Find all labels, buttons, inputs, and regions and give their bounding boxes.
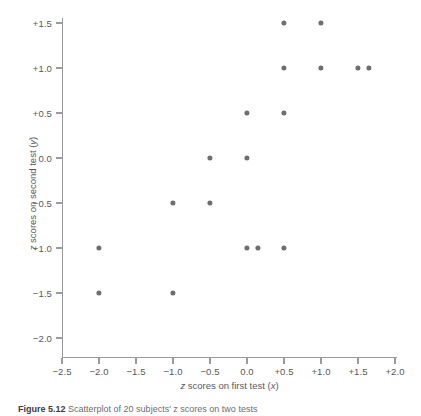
data-point: [170, 200, 175, 205]
data-point: [244, 110, 249, 115]
x-tick-label: +0.5: [274, 366, 293, 377]
x-tick-label: −2.5: [52, 366, 71, 377]
data-point: [244, 245, 249, 250]
x-tick: [320, 358, 321, 364]
data-point: [367, 65, 372, 70]
x-axis-title-tail: ): [275, 380, 278, 391]
x-tick: [283, 358, 284, 364]
scatter-plot: −2.0−1.5−1.0−0.50.0+0.5+1.0+1.5 −2.5−2.0…: [0, 0, 421, 416]
figure-caption-text: Scatterplot of 20 subjects' z scores on …: [68, 404, 257, 414]
y-tick: [56, 112, 62, 113]
figure-caption-label: Figure: [18, 404, 46, 414]
x-tick: [61, 358, 62, 364]
data-point: [281, 20, 286, 25]
data-point: [244, 155, 249, 160]
x-tick-label: −1.5: [126, 366, 145, 377]
y-tick: [56, 247, 62, 248]
y-tick-label: −2.0: [33, 333, 52, 344]
y-axis-title-rest: scores on second test (: [27, 145, 38, 246]
x-tick-label: −1.0: [163, 366, 182, 377]
data-point: [281, 110, 286, 115]
data-point: [96, 245, 101, 250]
x-tick: [246, 358, 247, 364]
data-point: [207, 155, 212, 160]
data-point: [281, 245, 286, 250]
x-tick-label: 0.0: [240, 366, 254, 377]
x-tick: [98, 358, 99, 364]
y-tick: [56, 202, 62, 203]
y-tick-label: 0.0: [38, 153, 52, 164]
y-tick-label: +1.0: [33, 63, 52, 74]
x-tick: [135, 358, 136, 364]
x-tick: [394, 358, 395, 364]
y-tick: [56, 337, 62, 338]
y-tick: [56, 157, 62, 158]
data-point: [170, 290, 175, 295]
figure-caption-number: 5.12: [48, 404, 66, 414]
y-tick-label: −1.5: [33, 288, 52, 299]
y-axis-title: z scores on second test (y): [27, 99, 38, 289]
y-tick: [56, 67, 62, 68]
x-axis-line: [62, 357, 397, 358]
x-tick-label: +1.5: [348, 366, 367, 377]
y-axis-title-z: z: [27, 246, 38, 251]
data-point: [256, 245, 261, 250]
y-axis-title-tail: ): [27, 137, 38, 140]
data-point: [355, 65, 360, 70]
data-point: [281, 65, 286, 70]
y-axis-line: [62, 18, 63, 358]
data-point: [318, 65, 323, 70]
y-tick: [56, 292, 62, 293]
x-tick-label: −0.5: [200, 366, 219, 377]
x-tick: [209, 358, 210, 364]
data-point: [207, 200, 212, 205]
figure-caption: Figure 5.12 Scatterplot of 20 subjects' …: [18, 404, 413, 414]
x-tick-label: +2.0: [385, 366, 404, 377]
x-axis-title: z scores on first test (x): [62, 380, 397, 391]
data-point: [318, 20, 323, 25]
y-axis-title-var: y: [27, 140, 38, 145]
x-axis-title-rest: scores on first test (: [185, 380, 271, 391]
x-tick: [357, 358, 358, 364]
y-tick-label: +1.5: [33, 18, 52, 29]
y-tick: [56, 22, 62, 23]
x-tick-label: +1.0: [311, 366, 330, 377]
x-tick-label: −2.0: [89, 366, 108, 377]
data-point: [96, 290, 101, 295]
figure-container: −2.0−1.5−1.0−0.50.0+0.5+1.0+1.5 −2.5−2.0…: [0, 0, 421, 416]
x-tick: [172, 358, 173, 364]
